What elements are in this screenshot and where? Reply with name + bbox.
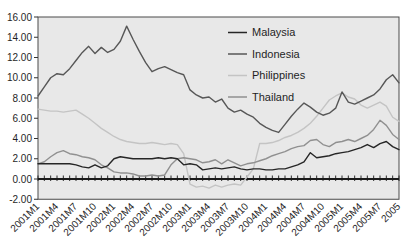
y-axis: 16.0014.0012.0010.008.006.004.002.000.00… — [7, 12, 38, 205]
figure: 16.0014.0012.0010.008.006.004.002.000.00… — [0, 0, 405, 252]
legend-label: Indonesia — [252, 48, 301, 60]
legend-label: Thailand — [252, 91, 294, 103]
x-axis: 2001M12001M42001M72001M102002M12002M4200… — [8, 200, 403, 238]
y-axis-label: 14.00 — [7, 32, 32, 43]
y-axis-label: 2.00 — [13, 153, 33, 164]
line-chart: 16.0014.0012.0010.008.006.004.002.000.00… — [0, 0, 405, 252]
y-axis-label: 4.00 — [13, 133, 33, 144]
y-axis-label: 16.00 — [7, 12, 32, 23]
y-axis-label: 10.00 — [7, 72, 32, 83]
y-axis-label: 12.00 — [7, 52, 32, 63]
legend-label: Philippines — [252, 69, 306, 81]
x-axis-label: 2005 — [379, 200, 403, 224]
y-axis-label: 8.00 — [13, 93, 33, 104]
y-axis-label: 6.00 — [13, 113, 33, 124]
plot-area — [38, 17, 399, 199]
legend-label: Malaysia — [252, 26, 296, 38]
y-axis-label: -2.00 — [9, 194, 32, 205]
y-axis-label: 0.00 — [13, 174, 33, 185]
